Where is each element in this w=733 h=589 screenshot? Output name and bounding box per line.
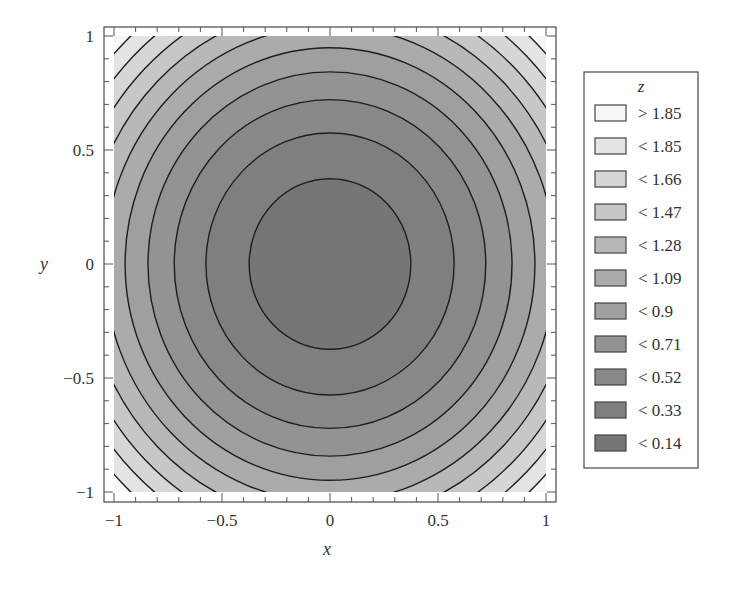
y-tick-label: 0 <box>86 255 95 274</box>
legend-swatch <box>595 171 626 187</box>
legend-swatch <box>595 369 626 385</box>
legend-label: < 1.28 <box>638 236 682 255</box>
legend-label: > 1.85 <box>638 104 682 123</box>
x-tick-label: 1 <box>542 511 551 530</box>
x-tick-labels: −1−0.500.51 <box>105 511 550 530</box>
legend-label: < 0.33 <box>638 401 682 420</box>
y-axis-label: y <box>38 254 48 274</box>
legend-title: z <box>637 77 645 96</box>
band-below-0.14 <box>249 179 411 350</box>
legend-entry: < 0.71 <box>595 335 682 354</box>
legend-label: < 0.52 <box>638 368 682 387</box>
y-tick-label: −0.5 <box>63 369 94 388</box>
contour-bands <box>36 0 624 574</box>
contour-chart: −1−0.500.51 −1−0.500.51 x y z > 1.85< 1.… <box>0 0 733 589</box>
x-tick-label: −0.5 <box>207 511 238 530</box>
legend-swatch <box>595 270 626 286</box>
legend-entry: < 1.47 <box>595 203 682 222</box>
legend-entry: < 0.14 <box>595 434 682 453</box>
y-tick-labels: −1−0.500.51 <box>63 27 94 502</box>
legend-swatch <box>595 435 626 451</box>
legend-swatch <box>595 303 626 319</box>
x-tick-label: −1 <box>105 511 123 530</box>
legend-entry: < 0.33 <box>595 401 682 420</box>
y-tick-label: −1 <box>76 483 94 502</box>
legend-swatch <box>595 204 626 220</box>
legend-label: < 0.9 <box>638 302 673 321</box>
legend-swatch <box>595 237 626 253</box>
legend-swatch <box>595 138 626 154</box>
legend-swatch <box>595 105 626 121</box>
legend-entry: < 0.52 <box>595 368 682 387</box>
legend: z > 1.85< 1.85< 1.66< 1.47< 1.28< 1.09< … <box>584 72 698 468</box>
legend-label: < 1.85 <box>638 137 682 156</box>
legend-entry: < 1.09 <box>595 269 682 288</box>
legend-label: < 0.71 <box>638 335 682 354</box>
legend-entry: > 1.85 <box>595 104 682 123</box>
y-tick-label: 0.5 <box>73 141 94 160</box>
y-tick-label: 1 <box>86 27 95 46</box>
legend-label: < 1.66 <box>638 170 682 189</box>
legend-entry: < 1.28 <box>595 236 682 255</box>
legend-label: < 0.14 <box>638 434 682 453</box>
legend-entry: < 1.66 <box>595 170 682 189</box>
x-tick-label: 0 <box>326 511 335 530</box>
legend-entry: < 1.85 <box>595 137 682 156</box>
legend-label: < 1.09 <box>638 269 682 288</box>
x-tick-label: 0.5 <box>427 511 448 530</box>
x-axis-label: x <box>322 539 331 559</box>
legend-label: < 1.47 <box>638 203 682 222</box>
legend-swatch <box>595 336 626 352</box>
legend-swatch <box>595 402 626 418</box>
